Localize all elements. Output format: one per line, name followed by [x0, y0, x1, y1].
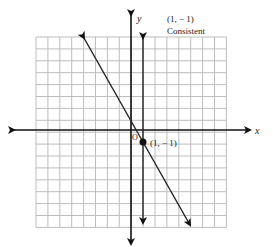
- y-axis-label: y: [136, 13, 142, 24]
- intersection-point: [140, 139, 147, 146]
- line-y-equals-neg2x-plus-1: [84, 38, 190, 225]
- x-axis-label: x: [254, 125, 260, 136]
- coordinate-graph: x y O (1, − 1) (1, − 1) Consistent: [0, 0, 273, 247]
- origin-label: O: [132, 133, 138, 142]
- solution-label: (1, − 1): [167, 14, 194, 24]
- point-label: (1, − 1): [150, 138, 177, 148]
- classification-label: Consistent: [167, 26, 206, 36]
